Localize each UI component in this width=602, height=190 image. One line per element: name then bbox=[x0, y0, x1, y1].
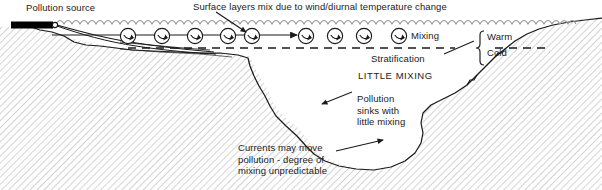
label-stratification: Stratification bbox=[371, 53, 425, 65]
label-pollution-sinks: Pollution sinks with little mixing bbox=[357, 93, 405, 128]
diagram-canvas: Pollution source Surface layers mix due … bbox=[0, 0, 602, 190]
label-cold: Cold bbox=[487, 47, 507, 59]
mixing-eddy-icon bbox=[327, 28, 342, 43]
water-surface-waves bbox=[56, 21, 576, 25]
mixing-eddy-group bbox=[120, 28, 371, 43]
mixing-eddy-icon bbox=[154, 28, 169, 43]
mixing-eddy-icon bbox=[220, 28, 235, 43]
mixing-eddy-icon bbox=[298, 28, 313, 43]
currents-leader bbox=[336, 140, 383, 151]
label-pollution-source: Pollution source bbox=[26, 2, 95, 14]
mixing-eddy-icon bbox=[356, 28, 371, 43]
stratification-leader bbox=[444, 41, 474, 54]
label-surface-layers-mix: Surface layers mix due to wind/diurnal t… bbox=[193, 1, 447, 13]
label-mixing: Mixing bbox=[411, 30, 439, 42]
warm-cold-bracket-icon bbox=[476, 31, 484, 65]
pollution-sinks-leader bbox=[322, 92, 352, 104]
label-warm: Warm bbox=[487, 31, 512, 43]
label-little-mixing: LITTLE MIXING bbox=[358, 70, 433, 82]
outfall-pipe-icon bbox=[11, 22, 58, 29]
mixing-eddy-icon bbox=[120, 28, 135, 43]
mixing-legend-eddy-icon bbox=[391, 28, 406, 43]
label-currents-may-move: Currents may move pollution - degree of … bbox=[238, 142, 327, 177]
mixing-eddy-icon bbox=[187, 28, 202, 43]
mixing-eddy-icon bbox=[244, 28, 259, 43]
